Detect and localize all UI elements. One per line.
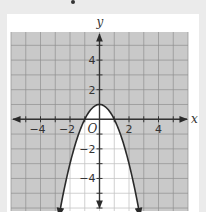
x-tick-label: 4 xyxy=(155,123,162,136)
y-axis-label: y xyxy=(96,15,104,29)
x-tick-label: −4 xyxy=(29,123,45,136)
x-tick-label: 2 xyxy=(126,123,133,136)
parabola-graph: x y O −4−22442−2−4 xyxy=(0,0,206,212)
y-tick-label: 2 xyxy=(89,84,96,97)
x-tick-label: −2 xyxy=(59,123,75,136)
y-tick-label: 4 xyxy=(89,54,96,67)
x-axis-label: x xyxy=(191,112,198,126)
origin-label: O xyxy=(88,122,98,136)
y-tick-label: −4 xyxy=(79,172,95,185)
y-tick-label: −2 xyxy=(79,143,95,156)
